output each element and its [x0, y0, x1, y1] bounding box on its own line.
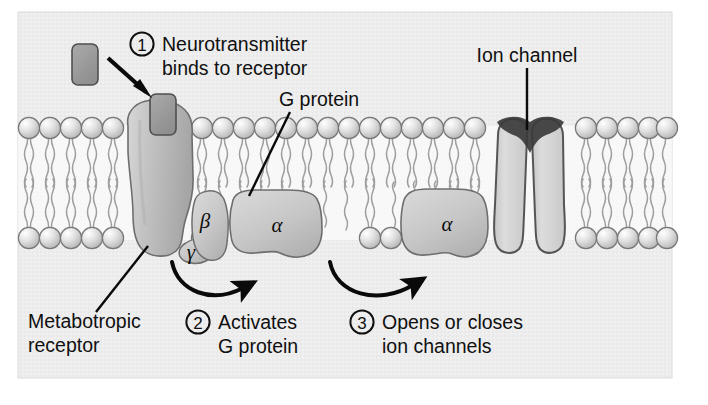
step-3-number: 3: [357, 314, 366, 333]
figure-root: 1 Neurotransmitter binds to receptor G p…: [0, 0, 708, 405]
g-protein-label: G protein: [279, 88, 359, 110]
alpha-subunit-docked-label: α: [271, 213, 283, 237]
step-2-line-2: G protein: [218, 335, 298, 357]
metabotropic-receptor-diagram: 1 Neurotransmitter binds to receptor G p…: [0, 0, 708, 405]
metabotropic-receptor-line-1: Metabotropic: [28, 310, 141, 332]
neurotransmitter-bound[interactable]: [150, 94, 176, 135]
step-2-number: 2: [193, 314, 202, 333]
ion-channel-label: Ion channel: [477, 44, 578, 66]
step-3-line-1: Opens or closes: [382, 311, 523, 333]
step-3-line-2: ion channels: [382, 335, 492, 357]
gamma-subunit-label: γ: [187, 240, 196, 264]
neurotransmitter-free[interactable]: [72, 44, 98, 85]
step-1-line-1: Neurotransmitter: [162, 33, 308, 55]
beta-subunit-label: β: [199, 209, 211, 233]
step-2-line-1: Activates: [218, 311, 297, 333]
upper-phospholipid-heads: [18, 117, 677, 138]
step-1-line-2: binds to receptor: [162, 57, 308, 79]
alpha-subunit-free-label: α: [441, 212, 453, 236]
step-1-number: 1: [137, 36, 146, 55]
metabotropic-receptor-line-2: receptor: [28, 334, 100, 356]
lipid-bilayer-membrane: [18, 117, 678, 248]
